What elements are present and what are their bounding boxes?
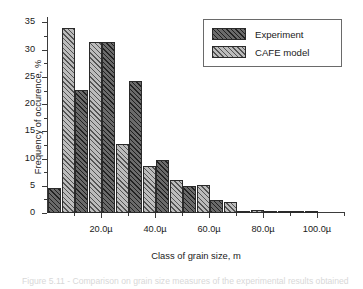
y-tick-label: 25: [25, 71, 35, 81]
bar-cafe-model-60-70: [224, 202, 237, 213]
bar-experiment-90-100: [291, 211, 304, 213]
x-tick-minor: [182, 213, 183, 216]
bar-experiment-40-50: [156, 160, 169, 213]
x-tick-minor: [290, 213, 291, 216]
bar-experiment-0-10: [48, 188, 61, 213]
legend-swatch-cafe-model-icon: [212, 46, 246, 58]
bar-experiment-10-20: [75, 90, 88, 213]
bar-experiment-50-60: [183, 186, 196, 213]
y-tick-minor: [44, 172, 47, 173]
y-tick-minor: [44, 91, 47, 92]
legend-item-cafe-model: CAFE model: [212, 43, 341, 61]
y-tick-minor: [44, 63, 47, 64]
y-tick-label: 30: [25, 44, 35, 54]
x-tick-20.0µ: [101, 213, 102, 218]
y-tick-20: 20: [42, 104, 47, 105]
x-tick-minor: [344, 213, 345, 216]
figure-histogram-grain-size: Frequency of occurence, % 05101520253035…: [0, 0, 363, 289]
y-tick-minor: [44, 118, 47, 119]
bar-experiment-30-40: [129, 81, 142, 213]
x-tick-label: 40.0µ: [143, 224, 166, 234]
y-tick-minor: [44, 36, 47, 37]
legend-item-experiment: Experiment: [212, 25, 341, 43]
y-tick-label: 5: [30, 180, 35, 190]
bar-experiment-80-90: [264, 211, 277, 213]
x-tick-minor: [128, 213, 129, 216]
bar-cafe-model-0-10: [62, 28, 75, 213]
x-tick-40.0µ: [155, 213, 156, 218]
y-tick-30: 30: [42, 50, 47, 51]
x-tick-label: 60.0µ: [197, 224, 220, 234]
bar-cafe-model-20-30: [116, 144, 129, 213]
bar-experiment-20-30: [102, 42, 115, 214]
bar-cafe-model-10-20: [89, 42, 102, 213]
x-axis-title: Class of grain size, m: [47, 250, 345, 261]
bar-cafe-model-50-60: [197, 185, 210, 213]
bar-experiment-70-80: [237, 211, 250, 213]
y-tick-10: 10: [42, 159, 47, 160]
x-tick-60.0µ: [209, 213, 210, 218]
legend-label-cafe-model: CAFE model: [255, 47, 309, 58]
figure-caption: Figure 5.11 - Comparison on grain size m…: [22, 276, 352, 286]
x-tick-minor: [74, 213, 75, 216]
y-tick-label: 20: [25, 98, 35, 108]
y-tick-minor: [44, 199, 47, 200]
bar-cafe-model-90-100: [305, 211, 318, 213]
bar-cafe-model-30-40: [143, 166, 156, 213]
y-tick-label: 10: [25, 153, 35, 163]
y-tick-35: 35: [42, 22, 47, 23]
y-tick-0: 0: [42, 213, 47, 214]
y-tick-label: 0: [30, 207, 35, 217]
x-tick-label: 80.0µ: [251, 224, 274, 234]
legend-swatch-experiment-icon: [212, 28, 246, 40]
x-tick-minor: [236, 213, 237, 216]
y-tick-15: 15: [42, 131, 47, 132]
x-tick-80.0µ: [263, 213, 264, 218]
legend-box: Experiment CAFE model: [203, 19, 342, 67]
x-tick-label: 100.0µ: [303, 224, 331, 234]
bar-cafe-model-70-80: [251, 210, 264, 213]
y-tick-label: 35: [25, 16, 35, 26]
y-tick-label: 15: [25, 125, 35, 135]
y-tick-minor: [44, 145, 47, 146]
bar-cafe-model-80-90: [278, 211, 291, 213]
legend-label-experiment: Experiment: [255, 29, 304, 40]
x-tick-label: 20.0µ: [89, 224, 112, 234]
y-tick-5: 5: [42, 186, 47, 187]
x-tick-100.0µ: [317, 213, 318, 218]
bar-cafe-model-40-50: [170, 180, 183, 213]
y-tick-25: 25: [42, 77, 47, 78]
bar-experiment-60-70: [210, 200, 223, 213]
